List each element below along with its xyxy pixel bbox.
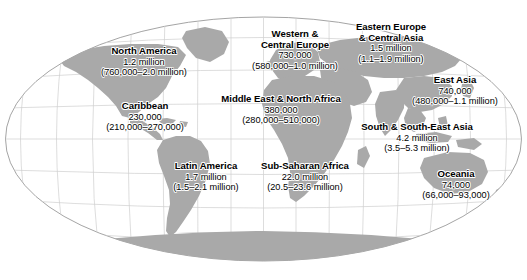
region-value: 740,000: [412, 86, 498, 96]
region-label-north-america: North America 1.2 million (760,000–2.0 m…: [101, 46, 187, 77]
region-range: (1.1–1.9 million): [356, 54, 426, 64]
region-name: Oceania: [422, 169, 489, 180]
region-range: (210,000–270,000): [106, 122, 184, 132]
region-label-sub-saharan-africa: Sub-Saharan Africa 22.0 million (20.5–23…: [261, 161, 349, 192]
region-value: 1.2 million: [101, 57, 187, 67]
region-value: 22.0 million: [261, 172, 349, 182]
region-name: Middle East & North Africa: [221, 94, 340, 105]
region-label-east-asia: East Asia 740,000 (480,000–1.1 million): [412, 75, 498, 106]
region-value: 4.2 million: [361, 133, 473, 143]
region-range: (480,000–1.1 million): [412, 96, 498, 106]
region-range: (1.5–2.1 million): [173, 182, 238, 192]
region-range: (66,000–93,000): [422, 190, 489, 200]
region-name-line2: Central Europe: [252, 40, 338, 51]
region-range: (20.5–23.6 million): [261, 182, 349, 192]
region-name: South & South-East Asia: [361, 122, 473, 133]
region-range: (760,000–2.0 million): [101, 67, 187, 77]
region-label-caribbean: Caribbean 230,000 (210,000–270,000): [106, 101, 184, 132]
region-value: 380,000: [221, 105, 340, 115]
region-value: 730,000: [252, 50, 338, 60]
region-name: North America: [101, 46, 187, 57]
region-name-line2: & Central Asia: [356, 33, 426, 44]
region-value: 74,000: [422, 180, 489, 190]
region-label-eastern-europe-central-asia: Eastern Europe & Central Asia 1.5 millio…: [356, 22, 426, 64]
region-name: East Asia: [412, 75, 498, 86]
region-label-latin-america: Latin America 1.7 million (1.5–2.1 milli…: [173, 161, 238, 192]
region-label-middle-east-north-africa: Middle East & North Africa 380,000 (280,…: [221, 94, 340, 125]
region-range: (580,000–1.0 million): [252, 61, 338, 71]
region-name: Caribbean: [106, 101, 184, 112]
region-name: Latin America: [173, 161, 238, 172]
region-value: 1.7 million: [173, 172, 238, 182]
region-range: (3.5–5.3 million): [361, 143, 473, 153]
region-label-south-south-east-asia: South & South-East Asia 4.2 million (3.5…: [361, 122, 473, 153]
region-value: 230,000: [106, 112, 184, 122]
region-range: (280,000–510,000): [221, 115, 340, 125]
region-name: Sub-Saharan Africa: [261, 161, 349, 172]
region-label-oceania: Oceania 74,000 (66,000–93,000): [422, 169, 489, 200]
world-map-figure: North America 1.2 million (760,000–2.0 m…: [0, 0, 527, 280]
region-label-western-central-europe: Western & Central Europe 730,000 (580,00…: [252, 29, 338, 71]
region-value: 1.5 million: [356, 43, 426, 53]
